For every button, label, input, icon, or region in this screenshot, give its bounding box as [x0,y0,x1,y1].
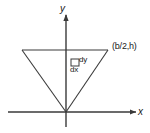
dy-label: dy [79,56,87,64]
triangle-left-edge [22,50,66,112]
vertex-coordinate-label: (b/2,h) [112,42,137,51]
x-axis [8,109,136,114]
dx-label: dx [70,66,78,74]
triangle-shape [22,50,108,112]
y-axis-arrowhead [63,14,68,21]
figure-canvas: y x (b/2,h) dy dx [0,0,150,133]
x-axis-label: x [138,107,143,117]
y-axis-label: y [60,4,65,14]
x-axis-arrowhead [130,109,136,114]
